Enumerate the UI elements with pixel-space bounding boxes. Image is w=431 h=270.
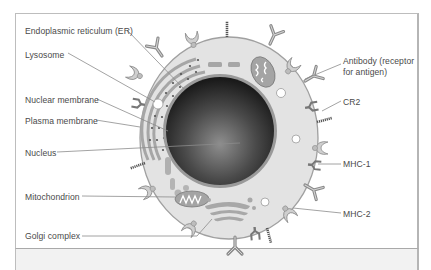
label-mhc-1: MHC-1 xyxy=(343,159,370,169)
nucleus-shape xyxy=(166,77,274,185)
label-lysosome: Lysosome xyxy=(25,50,64,60)
label-nuclear-membrane: Nuclear membrane xyxy=(25,95,99,105)
lysosome-shape xyxy=(153,99,163,109)
label-nucleus: Nucleus xyxy=(25,148,56,158)
label-plasma-membrane: Plasma membrane xyxy=(25,116,98,126)
label-mitochondrion: Mitochondrion xyxy=(25,192,80,202)
label-mhc-2: MHC-2 xyxy=(343,209,370,219)
label-antibody-line2: for antigen) xyxy=(343,67,387,77)
label-cr2: CR2 xyxy=(343,97,360,107)
label-antibody-line1: Antibody (receptor xyxy=(343,56,414,66)
cell-diagram xyxy=(0,0,431,270)
label-endoplasmic-reticulum: Endoplasmic reticulum (ER) xyxy=(25,26,133,36)
label-golgi-complex: Golgi complex xyxy=(25,231,80,241)
